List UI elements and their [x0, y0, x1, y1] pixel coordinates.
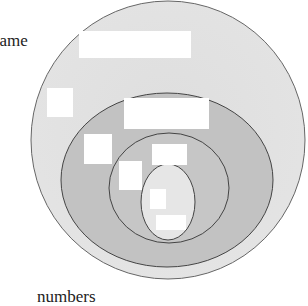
placeholder-third-left-label [119, 161, 142, 190]
placeholder-inner-bottom-label [156, 215, 186, 230]
placeholder-outer-left-label [47, 88, 73, 117]
placeholder-inner-top-label [150, 189, 166, 209]
numbers-label: numbers [37, 288, 96, 305]
name-label: name [0, 32, 28, 49]
placeholder-outer-top-label [79, 31, 191, 58]
placeholder-second-left-label [84, 134, 112, 164]
placeholder-third-top-label [152, 144, 187, 165]
placeholder-second-top-label [124, 98, 209, 129]
